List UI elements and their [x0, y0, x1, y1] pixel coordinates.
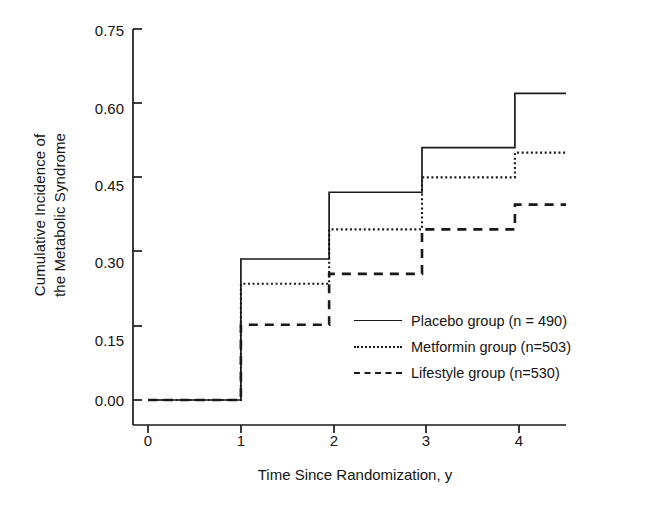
- chart-legend: Placebo group (n = 490) Metformin group …: [354, 308, 571, 386]
- x-axis-ticks: [148, 425, 519, 433]
- chart-figure: Cumulative Incidence of the Metabolic Sy…: [0, 0, 663, 517]
- legend-item-metformin: Metformin group (n=503): [354, 334, 571, 360]
- legend-label-lifestyle: Lifestyle group (n=530): [411, 360, 560, 386]
- legend-label-placebo: Placebo group (n = 490): [411, 308, 567, 334]
- legend-item-lifestyle: Lifestyle group (n=530): [354, 360, 571, 386]
- legend-key-solid-icon: [354, 314, 402, 328]
- legend-label-metformin: Metformin group (n=503): [411, 334, 571, 360]
- legend-key-dotted-icon: [354, 340, 402, 354]
- y-axis-ticks: [133, 29, 142, 400]
- legend-item-placebo: Placebo group (n = 490): [354, 308, 571, 334]
- legend-key-dashed-icon: [354, 366, 402, 380]
- plot-area: [0, 0, 663, 517]
